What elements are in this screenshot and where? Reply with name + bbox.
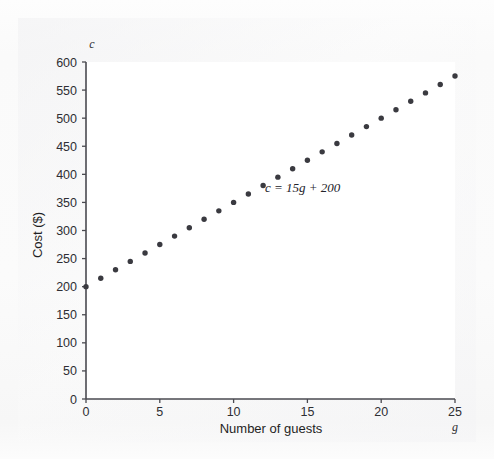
y-tick-label: 150 [56,308,77,322]
data-point [393,107,398,112]
y-tick-label: 550 [56,84,77,98]
data-point [231,200,236,205]
x-tick-label: 5 [156,405,163,419]
data-point [216,208,221,213]
x-tick-label: 0 [83,405,90,419]
x-tick-label: 10 [227,405,241,419]
data-point [260,183,265,188]
data-point [364,124,369,129]
data-point [438,82,443,87]
y-tick-label: 300 [56,224,77,238]
data-point [334,141,339,146]
scatter-chart: c g Cost ($) Number of guests c = 15g + … [0,0,494,459]
data-point [83,284,88,289]
data-point [187,225,192,230]
equation-annotation: c = 15g + 200 [265,180,341,195]
y-axis-variable-label: c [89,37,95,51]
data-point [172,233,177,238]
y-tick-label: 450 [56,140,77,154]
data-point [201,217,206,222]
x-tick-label: 20 [374,405,388,419]
data-point [423,90,428,95]
y-axis-ticks: 050100150200250300350400450500550600 [56,56,86,407]
data-point [319,149,324,154]
y-tick-label: 350 [56,196,77,210]
data-point [157,242,162,247]
data-point [408,99,413,104]
data-point [379,115,384,120]
y-tick-label: 50 [63,364,77,378]
y-tick-label: 600 [56,56,77,70]
data-point [113,267,118,272]
data-point [142,250,147,255]
y-axis-title: Cost ($) [30,212,45,258]
data-point [98,276,103,281]
y-tick-label: 250 [56,252,77,266]
data-point [452,73,457,78]
y-tick-label: 100 [56,336,77,350]
y-tick-label: 500 [56,112,77,126]
x-tick-label: 25 [448,405,462,419]
y-tick-label: 200 [56,280,77,294]
x-axis-variable-label: g [452,420,458,434]
x-tick-label: 15 [300,405,314,419]
data-point [128,259,133,264]
x-axis-title: Number of guests [220,421,323,436]
data-point [275,174,280,179]
data-point [305,158,310,163]
data-point [246,191,251,196]
y-tick-label: 0 [70,393,77,407]
x-axis-ticks: 0510152025 [83,399,462,419]
data-point [290,166,295,171]
data-point [349,132,354,137]
y-tick-label: 400 [56,168,77,182]
